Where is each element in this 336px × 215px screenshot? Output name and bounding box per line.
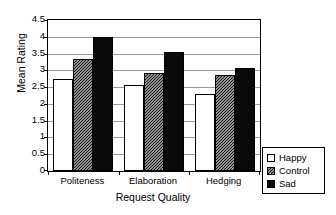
bar-group	[119, 20, 190, 171]
x-axis-tick-label: Elaboration	[129, 175, 177, 186]
legend-label: Sad	[279, 178, 296, 189]
x-axis-tick-labels: PolitenessElaborationHedging	[47, 175, 259, 189]
x-axis-tick-label: Politeness	[60, 175, 104, 186]
legend-item[interactable]: Happy	[267, 151, 321, 164]
bar	[144, 73, 164, 171]
legend-label: Happy	[279, 152, 306, 163]
bar	[124, 85, 144, 171]
bar-series-container	[48, 20, 260, 171]
bar	[195, 94, 215, 171]
legend-item[interactable]: Control	[267, 164, 321, 177]
bar-chart-figure: Mean Rating 4.543.532.521.510.50 Politen…	[0, 0, 336, 215]
hatch-pattern	[216, 76, 234, 170]
bar	[93, 37, 113, 171]
legend-swatch-icon	[267, 154, 275, 162]
x-axis-tick-label: Hedging	[206, 175, 241, 186]
bar-group	[189, 20, 260, 171]
bar	[235, 68, 255, 171]
legend-item[interactable]: Sad	[267, 177, 321, 190]
bar	[215, 75, 235, 171]
x-axis-tick-mark	[259, 171, 260, 175]
bar	[53, 79, 73, 171]
bar-group	[48, 20, 119, 171]
legend-label: Control	[279, 165, 310, 176]
x-axis-title: Request Quality	[47, 191, 259, 203]
hatch-pattern	[268, 168, 274, 174]
chart-legend: HappyControlSad	[262, 147, 325, 194]
hatch-pattern	[74, 60, 92, 170]
bar	[164, 52, 184, 171]
plot-area	[47, 19, 261, 172]
bar	[73, 59, 93, 171]
y-axis-tick-labels: 4.543.532.521.510.50	[20, 14, 45, 171]
hatch-pattern	[145, 74, 163, 170]
legend-swatch-icon	[267, 180, 275, 188]
legend-swatch-icon	[267, 167, 275, 175]
